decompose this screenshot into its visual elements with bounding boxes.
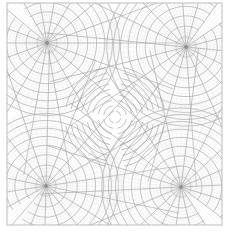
fine-spoke	[28, 43, 47, 114]
coarse-spoke	[181, 187, 230, 233]
pinwheel-band	[116, 111, 121, 116]
pinwheel-band	[116, 118, 121, 123]
grid-layer	[0, 0, 230, 233]
coarse-spoke	[186, 47, 196, 187]
center-marker	[180, 186, 183, 189]
fine-spoke	[186, 13, 230, 47]
pinwheel-band	[109, 118, 114, 123]
fine-spoke	[181, 187, 230, 233]
fine-spoke	[39, 110, 46, 186]
coarse-ring	[128, 0, 230, 105]
pinwheel-band	[117, 119, 126, 128]
fine-spoke	[46, 154, 115, 186]
coarse-spoke	[186, 12, 230, 47]
fine-spoke	[181, 187, 230, 233]
pinwheel-band	[98, 120, 112, 134]
pinwheel-band	[117, 106, 126, 115]
fine-spoke	[47, 0, 104, 43]
fine-spoke	[181, 187, 230, 233]
pinwheel-band	[104, 106, 113, 115]
fine-spoke	[181, 187, 230, 233]
pinwheel-band	[109, 111, 114, 116]
pinwheel-band	[93, 95, 111, 113]
center-marker	[185, 46, 188, 49]
center-marker	[45, 185, 48, 188]
fine-spoke	[47, 43, 66, 114]
conformal-grid-diagram	[0, 0, 230, 233]
pinwheel-band	[104, 119, 113, 128]
center-marker	[46, 42, 49, 45]
coarse-spoke	[181, 187, 230, 233]
fine-spoke	[181, 136, 230, 187]
